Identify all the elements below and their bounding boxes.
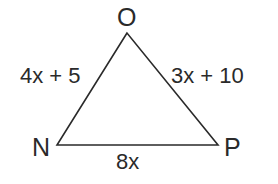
- vertex-label-n: N: [32, 135, 50, 160]
- vertex-label-p: P: [224, 135, 241, 160]
- side-label-np: 8x: [116, 151, 139, 173]
- triangle-diagram: O N P 4x + 5 3x + 10 8x: [0, 0, 278, 184]
- side-label-no: 4x + 5: [20, 65, 81, 87]
- side-label-op: 3x + 10: [171, 65, 244, 87]
- vertex-label-o: O: [117, 5, 136, 30]
